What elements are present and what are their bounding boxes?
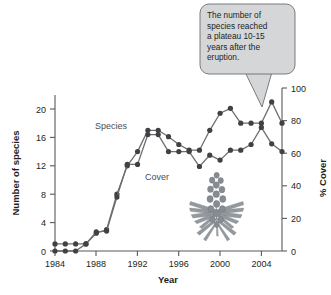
- data-point: [125, 162, 130, 167]
- data-point: [73, 248, 78, 253]
- data-point: [166, 149, 171, 154]
- data-point: [83, 241, 88, 246]
- x-axis: 1984 1988 1992 1996 2000 2004 Year: [45, 251, 282, 285]
- data-point: [207, 128, 212, 133]
- y-axis-title: Number of species: [10, 131, 21, 216]
- data-point: [259, 125, 264, 130]
- y-tick-label-20: 20: [36, 105, 46, 115]
- data-point: [176, 149, 181, 154]
- data-point: [94, 229, 99, 234]
- data-point: [166, 134, 171, 139]
- series-label-cover: Cover: [145, 172, 169, 182]
- y2-tick-label-20: 20: [291, 214, 301, 224]
- data-point: [52, 248, 57, 253]
- series-line-cover: [55, 127, 282, 251]
- data-point: [135, 149, 140, 154]
- x-tick-label-1988: 1988: [86, 259, 106, 269]
- callout-tail: [245, 72, 272, 107]
- data-point: [135, 162, 140, 167]
- series-cover: [52, 125, 284, 254]
- data-point: [156, 132, 161, 137]
- data-point: [104, 229, 109, 234]
- data-point: [207, 153, 212, 158]
- y-tick-label-16: 16: [36, 133, 46, 143]
- right-y-axis: 0 20 40 60 80 100 % Cover: [282, 84, 328, 257]
- x-tick-label-1996: 1996: [169, 259, 189, 269]
- x-tick-label-2000: 2000: [210, 259, 230, 269]
- data-point: [52, 241, 57, 246]
- x-axis-title: Year: [158, 274, 178, 285]
- data-point: [238, 148, 243, 153]
- y2-tick-label-0: 0: [291, 247, 296, 257]
- x-tick-label-1992: 1992: [127, 259, 147, 269]
- y2-tick-label-100: 100: [291, 84, 306, 94]
- y2-tick-label-80: 80: [291, 116, 301, 126]
- data-point: [114, 194, 119, 199]
- data-point: [269, 99, 274, 104]
- data-point: [197, 164, 202, 169]
- data-point: [248, 121, 253, 126]
- data-point: [279, 149, 284, 154]
- data-point: [228, 106, 233, 111]
- data-point: [187, 149, 192, 154]
- y-tick-label-8: 8: [41, 190, 46, 200]
- y2-tick-label-40: 40: [291, 181, 301, 191]
- y-tick-label-4: 4: [41, 218, 46, 228]
- y2-axis-title: % Cover: [317, 159, 328, 197]
- y2-tick-label-60: 60: [291, 149, 301, 159]
- data-point: [248, 142, 253, 147]
- y-tick-label-0: 0: [41, 247, 46, 257]
- data-point: [228, 148, 233, 153]
- data-point: [63, 241, 68, 246]
- data-point: [145, 132, 150, 137]
- lupine-plant-illustration: [190, 172, 244, 241]
- data-point: [73, 241, 78, 246]
- data-point: [217, 158, 222, 163]
- data-point: [197, 148, 202, 153]
- data-point: [217, 111, 222, 116]
- data-point: [238, 121, 243, 126]
- data-point: [176, 142, 181, 147]
- series-label-species: Species: [95, 121, 128, 131]
- chart-figure: 0 4 8 12 16 20 Number of species 0 20 40…: [0, 0, 331, 295]
- x-tick-label-2004: 2004: [251, 259, 271, 269]
- data-point: [63, 248, 68, 253]
- data-point: [279, 121, 284, 126]
- annotation-text: The number of species reached a plateau …: [207, 10, 285, 63]
- x-tick-label-1984: 1984: [45, 259, 65, 269]
- left-y-axis: 0 4 8 12 16 20 Number of species: [10, 95, 55, 257]
- data-point: [269, 141, 274, 146]
- y-tick-label-12: 12: [36, 161, 46, 171]
